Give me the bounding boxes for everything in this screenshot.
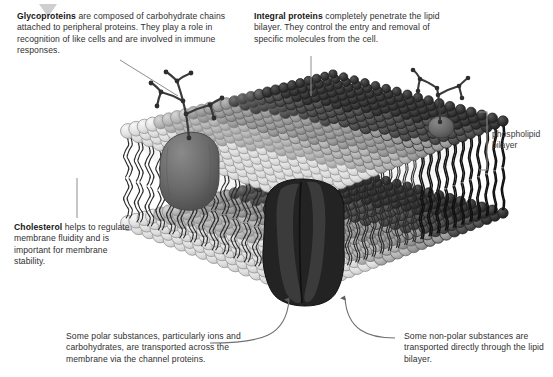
callout-polar-substances: Some polar substances, particularly ions… [66,331,266,365]
callout-glycoproteins-term: Glycoproteins [17,11,76,21]
callout-glycoproteins: Glycoproteins are composed of carbohydra… [17,11,242,57]
integral-protein [263,179,344,306]
callout-cholesterol: Cholesterol helps to regulate membrane f… [14,222,139,268]
bilayer-label: phospholipid bilayer [492,129,550,151]
callout-polar-substances-text: Some polar substances, particularly ions… [66,331,241,364]
bilayer-label-line1: phospholipid [492,129,550,140]
callout-non-polar-substances: Some non-polar substances are transporte… [404,331,553,365]
callout-cholesterol-term: Cholesterol [14,222,62,232]
callout-non-polar-substances-text: Some non-polar substances are transporte… [404,331,544,364]
callout-integral-proteins-term: Integral proteins [254,11,323,21]
membrane-diagram: Glycoproteins are composed of carbohydra… [0,0,553,377]
callout-integral-proteins: Integral proteins completely penetrate t… [254,11,444,45]
bilayer-label-line2: bilayer [492,140,550,151]
